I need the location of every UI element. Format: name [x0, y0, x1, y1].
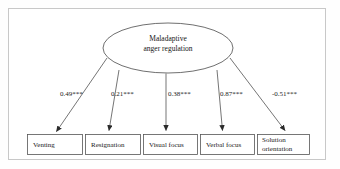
- path-coefficient-visual-focus: 0.38***: [168, 90, 191, 98]
- indicator-label-verbal-focus: Verbal focus: [206, 141, 241, 150]
- indicator-label-resignation: Resignation: [91, 141, 124, 150]
- indicator-label-solution-orientation: Solution orientation: [262, 136, 292, 153]
- indicator-label-venting: Venting: [33, 141, 55, 150]
- indicator-label-visual-focus: Visual focus: [149, 141, 184, 150]
- latent-variable-label: Maladaptive anger regulation: [104, 34, 232, 53]
- path-arrow-verbal-focus: [217, 70, 223, 131]
- path-arrow-resignation: [109, 70, 119, 131]
- path-diagram-figure: Maladaptive anger regulation 0.49*** 0.2…: [0, 0, 340, 169]
- path-coefficient-venting: 0.49***: [60, 90, 83, 98]
- path-coefficient-resignation: 0.21***: [111, 90, 134, 98]
- path-coefficient-solution-orientation: -0.51***: [272, 90, 297, 98]
- path-coefficient-verbal-focus: 0.87***: [220, 90, 243, 98]
